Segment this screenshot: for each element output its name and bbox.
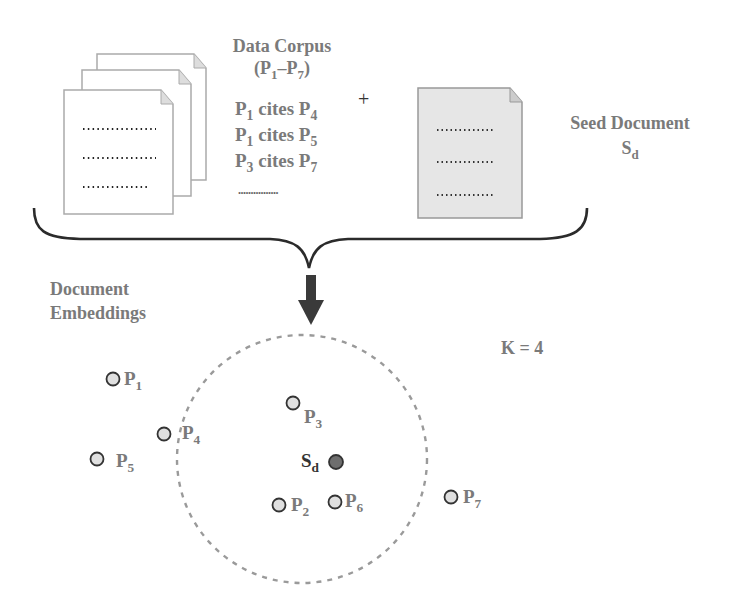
point-p5-marker[interactable] — [91, 453, 104, 466]
plus-sign: + — [358, 88, 369, 111]
down-arrow-icon — [298, 275, 324, 325]
point-p1-label: P1 — [124, 368, 142, 390]
seed-document-title: Seed Document — [555, 113, 705, 134]
point-p6-label: P6 — [345, 490, 363, 512]
point-p3-marker[interactable] — [287, 397, 300, 410]
corpus-title: Data Corpus — [222, 36, 342, 57]
point-p2-label: P2 — [291, 494, 309, 516]
point-p5-label: P5 — [116, 450, 134, 472]
citation-row: P3 cites P7 — [235, 150, 317, 172]
point-p7-label: P7 — [463, 486, 481, 508]
point-p1-marker[interactable] — [107, 373, 120, 386]
point-p4-label: P4 — [182, 422, 200, 444]
point-p2-marker[interactable] — [273, 499, 286, 512]
corpus-document-stack-icon — [64, 54, 206, 214]
embeddings-title: Document Embeddings — [50, 277, 146, 325]
citation-ellipsis: ................ — [238, 183, 278, 198]
document-front — [64, 90, 173, 214]
point-p7-marker[interactable] — [445, 491, 458, 504]
point-p6-marker[interactable] — [329, 496, 342, 509]
citation-row: P1 cites P5 — [235, 124, 317, 146]
k-value-label: K = 4 — [501, 338, 543, 359]
corpus-range: (P1–P7) — [222, 58, 342, 79]
seed-document-symbol: Sd — [555, 138, 705, 159]
point-p4-marker[interactable] — [158, 428, 171, 441]
point-p3-label: P3 — [304, 406, 322, 428]
citation-row: P1 cites P4 — [235, 98, 317, 120]
seed-point-label: Sd — [301, 450, 319, 472]
seed-point-marker[interactable] — [329, 455, 343, 469]
seed-document-icon — [418, 88, 522, 218]
